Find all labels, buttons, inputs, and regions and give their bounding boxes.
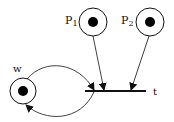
- transition-t-label: t: [153, 86, 157, 97]
- transition-t: t: [85, 86, 157, 97]
- token-icon: [18, 86, 28, 96]
- place-p1: P1: [65, 8, 107, 36]
- arc-p1-to-t: [93, 36, 104, 90]
- token-icon: [88, 17, 98, 27]
- arc-p2-to-t: [131, 36, 149, 90]
- place-w: w: [10, 63, 36, 104]
- arc-w-to-t: [27, 66, 94, 90]
- token-icon: [145, 17, 155, 27]
- petri-net-diagram: P1 P2 w t: [0, 0, 174, 122]
- place-w-label: w: [13, 63, 22, 74]
- place-p2-label: P2: [121, 14, 134, 28]
- place-p2: P2: [121, 8, 164, 36]
- place-p1-label: P1: [65, 14, 78, 28]
- arc-t-to-w: [26, 92, 94, 116]
